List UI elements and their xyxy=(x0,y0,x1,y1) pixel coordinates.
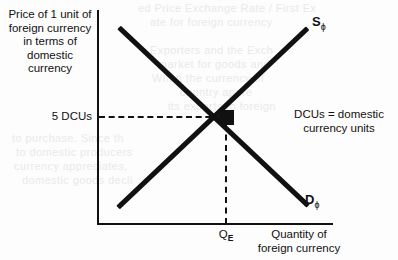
y-axis-title: Price of 1 unit of foreign currency in t… xyxy=(6,8,94,76)
quantity-label-subscript: E xyxy=(228,233,234,243)
equilibrium-price-guideline xyxy=(99,116,221,118)
equilibrium-point-marker xyxy=(219,110,234,125)
demand-label-subscript: ɸ xyxy=(314,200,319,210)
equilibrium-quantity-guideline xyxy=(225,124,227,224)
quantity-label-base: Q xyxy=(219,228,228,240)
x-axis-title: Quantity of foreign currency xyxy=(245,228,353,255)
equilibrium-price-label: 5 DCUs xyxy=(34,110,92,124)
demand-curve-label: Dɸ xyxy=(305,192,319,210)
bleed-text: to domestic producers xyxy=(16,146,133,158)
bleed-text: domestic goods decli xyxy=(22,174,133,186)
bleed-text: ed Price Exchange Rate / First Ex xyxy=(138,2,316,14)
bleed-text: currency appreciates, xyxy=(14,160,128,172)
bleed-text: market for goods and xyxy=(158,58,270,70)
supply-label-base: S xyxy=(312,14,321,29)
x-axis-line xyxy=(97,223,333,225)
bleed-text: ate for foreign currency xyxy=(150,16,273,28)
equilibrium-quantity-label: QE xyxy=(206,228,246,246)
bleed-text: to purchase. Since th xyxy=(12,132,124,144)
figure-canvas: ed Price Exchange Rate / First Ex ate fo… xyxy=(0,0,398,260)
supply-label-subscript: ɸ xyxy=(321,22,326,32)
bleed-text: Exporters and the Exch xyxy=(150,44,273,56)
dcu-definition-note: DCUs = domestic currency units xyxy=(283,108,395,135)
supply-curve-label: Sɸ xyxy=(312,14,326,32)
demand-label-base: D xyxy=(305,192,314,207)
